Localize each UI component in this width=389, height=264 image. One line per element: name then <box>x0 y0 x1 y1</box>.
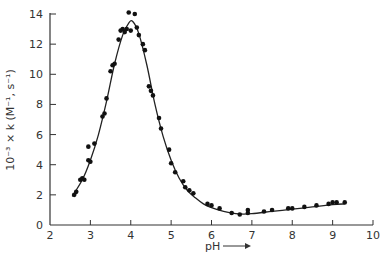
x-axis-label: pH <box>205 240 220 253</box>
data-point <box>217 206 222 211</box>
data-point <box>86 144 91 149</box>
x-tick-label: 10 <box>366 229 380 242</box>
y-tick-label: 10 <box>29 68 43 81</box>
data-point <box>209 203 214 208</box>
data-point <box>183 185 188 190</box>
data-point <box>286 206 291 211</box>
data-point <box>82 177 87 182</box>
data-point <box>135 25 140 30</box>
fitted-curve <box>72 21 345 215</box>
data-point <box>147 84 152 89</box>
y-tick-label: 12 <box>29 38 43 51</box>
y-tick-label: 14 <box>29 8 43 21</box>
data-points <box>72 10 347 217</box>
y-tick-label: 6 <box>36 129 43 142</box>
data-point <box>92 141 97 146</box>
data-point <box>205 202 210 207</box>
axes: 2345678910 02468101214 <box>29 8 380 242</box>
data-point <box>326 202 331 207</box>
data-point <box>104 96 109 101</box>
data-point <box>116 37 121 42</box>
data-point <box>108 69 113 74</box>
data-point <box>74 190 79 195</box>
y-tick-label: 2 <box>36 189 43 202</box>
y-ticks: 02468101214 <box>29 8 56 232</box>
y-tick-label: 8 <box>36 98 43 111</box>
data-point <box>330 200 335 205</box>
data-point <box>262 209 267 214</box>
data-point <box>229 211 234 216</box>
data-point <box>102 111 107 116</box>
x-tick-label: 2 <box>47 229 54 242</box>
data-point <box>151 93 156 98</box>
data-point <box>126 10 131 15</box>
x-ticks: 2345678910 <box>47 220 381 242</box>
data-point <box>187 188 192 193</box>
x-tick-label: 3 <box>87 229 94 242</box>
data-point <box>167 147 172 152</box>
x-tick-label: 4 <box>127 229 134 242</box>
data-point <box>137 33 142 38</box>
data-point <box>314 203 319 208</box>
data-point <box>181 179 186 184</box>
y-tick-label: 4 <box>36 159 43 172</box>
data-point <box>157 116 162 121</box>
data-point <box>237 212 242 217</box>
data-point <box>173 170 178 175</box>
data-point <box>270 208 275 213</box>
x-tick-label: 9 <box>329 229 336 242</box>
y-axis-label: 10⁻³ × k (M⁻¹, s⁻¹) <box>4 69 17 171</box>
data-point <box>112 61 117 66</box>
x-tick-label: 5 <box>168 229 175 242</box>
data-point <box>169 161 174 166</box>
x-tick-label: 7 <box>248 229 255 242</box>
data-point <box>143 48 148 53</box>
data-point <box>132 12 137 17</box>
data-point <box>290 206 295 211</box>
data-point <box>88 159 93 164</box>
data-point <box>191 191 196 196</box>
data-point <box>159 126 164 131</box>
data-point <box>246 208 251 213</box>
x-axis-arrow-icon <box>223 243 251 249</box>
data-point <box>342 200 347 205</box>
data-point <box>141 42 146 47</box>
data-point <box>149 89 154 94</box>
data-point <box>334 200 339 205</box>
x-tick-label: 8 <box>289 229 296 242</box>
chart: 2345678910 02468101214 pH 10⁻³ × k (M⁻¹,… <box>0 0 389 264</box>
data-point <box>302 205 307 210</box>
data-point <box>124 27 129 32</box>
data-point <box>128 28 133 33</box>
y-tick-label: 0 <box>36 219 43 232</box>
